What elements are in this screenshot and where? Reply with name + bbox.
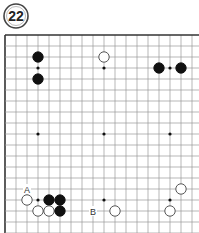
white-stone — [110, 206, 120, 216]
diagram-number-badge: 22 — [4, 4, 28, 28]
point-label-a: A — [24, 185, 30, 195]
go-board-diagram: 22 AB — [0, 0, 199, 233]
black-stone — [33, 74, 43, 84]
diagram-number: 22 — [8, 8, 24, 24]
black-stone — [55, 206, 65, 216]
black-stone — [176, 63, 186, 73]
white-stone — [44, 206, 54, 216]
black-stone — [44, 195, 54, 205]
black-stone — [55, 195, 65, 205]
star-point — [168, 132, 171, 135]
star-point — [36, 198, 39, 201]
star-point — [36, 66, 39, 69]
black-stone — [154, 63, 164, 73]
star-point — [102, 198, 105, 201]
star-point — [102, 132, 105, 135]
star-point — [36, 132, 39, 135]
white-stone — [99, 52, 109, 62]
star-point — [168, 198, 171, 201]
white-stone — [165, 206, 175, 216]
white-stone — [33, 206, 43, 216]
black-stone — [33, 52, 43, 62]
white-stone — [176, 184, 186, 194]
star-point — [102, 66, 105, 69]
star-point — [168, 66, 171, 69]
point-label-b: B — [90, 207, 96, 217]
white-stone — [22, 195, 32, 205]
